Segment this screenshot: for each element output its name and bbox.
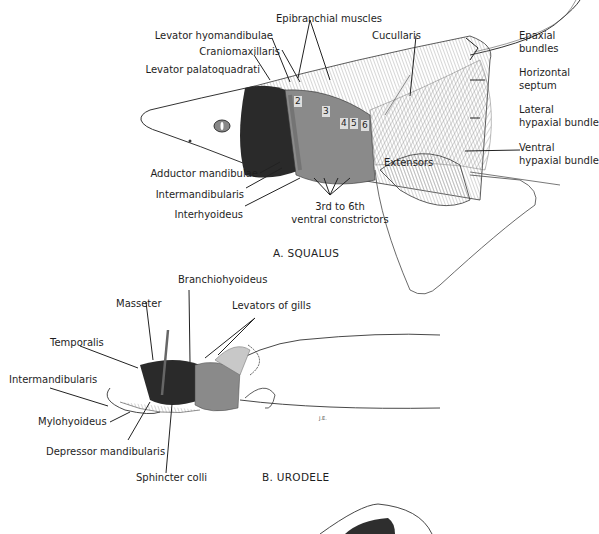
label-epibranchial-muscles: Epibranchial muscles — [276, 13, 382, 25]
label-mylohyoideus: Mylohyoideus — [38, 416, 107, 428]
label-depressor-mandibularis: Depressor mandibularis — [46, 446, 165, 458]
label-lateral-hypaxial-line1: Lateral — [519, 104, 554, 116]
label-intermandibularis-urodele: Intermandibularis — [9, 374, 97, 386]
gill-number-6: 6 — [362, 119, 368, 131]
label-ventral-hypaxial-line1: Ventral — [519, 142, 555, 154]
gill-number-5: 5 — [351, 117, 357, 129]
label-sphincter-colli: Sphincter colli — [136, 472, 207, 484]
gill-number-4: 4 — [341, 117, 347, 129]
label-levator-hyomandibulae: Levator hyomandibulae — [139, 30, 273, 42]
squalus-drawing — [141, 0, 580, 294]
caption-squalus: A. SQUALUS — [273, 247, 339, 259]
gill-number-2: 2 — [295, 95, 301, 107]
label-cucullaris: Cucullaris — [372, 30, 421, 42]
label-intermandibularis: Intermandibularis — [150, 189, 244, 201]
label-craniomaxillaris: Craniomaxillaris — [148, 46, 280, 58]
label-levator-palatoquadrati: Levator palatoquadrati — [130, 64, 260, 76]
label-constrictors-line1: 3rd to 6th — [290, 201, 390, 213]
caption-urodele: B. URODELE — [262, 471, 329, 483]
label-levators-of-gills: Levators of gills — [232, 300, 311, 312]
label-temporalis: Temporalis — [50, 337, 104, 349]
label-extensors: Extensors — [384, 157, 433, 169]
label-ventral-hypaxial-line2: hypaxial bundle — [519, 155, 599, 167]
label-horizontal-septum-line2: septum — [519, 80, 557, 92]
artist-signature: J.E. — [319, 412, 327, 424]
label-branchiohyoideus: Branchiohyoideus — [178, 274, 267, 286]
label-epaxial-bundles-line2: bundles — [519, 43, 559, 55]
label-lateral-hypaxial-line2: hypaxial bundle — [519, 117, 599, 129]
label-masseter: Masseter — [116, 298, 162, 310]
gill-number-3: 3 — [323, 105, 329, 117]
label-interhyoideus: Interhyoideus — [160, 209, 243, 221]
partial-figure-c — [320, 504, 432, 534]
label-adductor-mandibulae: Adductor mandibulae — [130, 168, 258, 180]
label-epaxial-bundles-line1: Epaxial — [519, 30, 555, 42]
label-constrictors-line2: ventral constrictors — [285, 214, 395, 226]
label-horizontal-septum-line1: Horizontal — [519, 67, 570, 79]
